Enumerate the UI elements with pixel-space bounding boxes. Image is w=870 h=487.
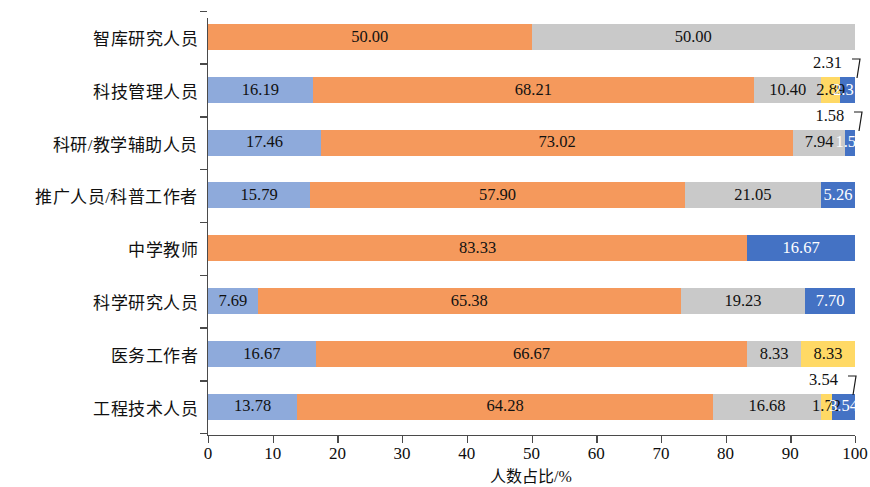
- bar-value-label: 19.23: [724, 293, 761, 310]
- y-axis-tick-4: [200, 222, 207, 223]
- bar-segment-r7-s2: 16.68: [713, 394, 821, 420]
- value-callout-1: 1.58: [815, 106, 844, 126]
- bar-value-label: 50.00: [351, 29, 388, 46]
- bar-segment-r3-s0: 15.79: [208, 182, 310, 208]
- value-callout-0: 2.31: [813, 53, 842, 73]
- x-axis-tick-90: [790, 436, 791, 443]
- bar-value-label: 5.26: [824, 187, 853, 204]
- bar-value-label: 10.40: [769, 82, 806, 99]
- y-axis-tick-7: [200, 380, 207, 381]
- x-axis-tick-label-60: 60: [588, 444, 605, 464]
- bar-value-label: 7.94: [805, 134, 834, 151]
- bar-segment-r2-s0: 17.46: [208, 130, 321, 156]
- bar-segment-r3-s2: 21.05: [685, 182, 821, 208]
- bar-row-7: 13.7864.2816.681.723.54: [0, 394, 870, 420]
- x-axis-title: 人数占比/%: [490, 463, 572, 487]
- y-axis-tick-0: [200, 11, 207, 12]
- value-callout-2: 3.54: [809, 370, 838, 390]
- y-axis-tick-end: [200, 433, 207, 434]
- x-axis-tick-50: [532, 436, 533, 443]
- bar-value-label: 8.33: [814, 346, 843, 363]
- bar-value-label: 21.05: [734, 187, 771, 204]
- bar-row-0: 50.0050.00: [0, 24, 870, 50]
- x-axis-tick-60: [596, 436, 597, 443]
- bar-segment-r3-s1: 57.90: [310, 182, 685, 208]
- bar-value-label: 16.67: [783, 240, 820, 257]
- bar-value-label: 1.58: [835, 134, 864, 151]
- bar-segment-r6-s1: 66.67: [316, 341, 747, 367]
- x-axis-tick-label-0: 0: [204, 444, 213, 464]
- bar-value-label: 7.69: [218, 293, 247, 310]
- bar-segment-r3-s4: 5.26: [821, 182, 855, 208]
- bar-segment-r4-s4: 16.67: [747, 235, 855, 261]
- x-axis-tick-label-10: 10: [264, 444, 281, 464]
- bar-value-label: 7.70: [816, 293, 845, 310]
- bar-segment-r6-s2: 8.33: [747, 341, 801, 367]
- bar-segment-r5-s1: 65.38: [258, 288, 681, 314]
- bar-segment-r1-s2: 10.40: [754, 77, 821, 103]
- bar-row-3: 15.7957.9021.055.26: [0, 182, 870, 208]
- x-axis-tick-20: [337, 436, 338, 443]
- y-axis-tick-1: [200, 63, 207, 64]
- x-axis-tick-label-90: 90: [782, 444, 799, 464]
- bar-value-label: 13.78: [234, 398, 271, 415]
- bar-segment-r1-s0: 16.19: [208, 77, 313, 103]
- bar-value-label: 65.38: [451, 293, 488, 310]
- y-axis-tick-3: [200, 169, 207, 170]
- bar-value-label: 50.00: [675, 29, 712, 46]
- bar-segment-r5-s2: 19.23: [681, 288, 805, 314]
- x-axis-tick-70: [661, 436, 662, 443]
- bar-value-label: 17.46: [246, 134, 283, 151]
- bar-segment-r0-s1: 50.00: [208, 24, 532, 50]
- bar-value-label: 68.21: [515, 82, 552, 99]
- x-axis-tick-80: [726, 436, 727, 443]
- y-axis-tick-6: [200, 327, 207, 328]
- bar-value-label: 16.19: [242, 82, 279, 99]
- bar-value-label: 66.67: [513, 346, 550, 363]
- y-axis-tick-5: [200, 275, 207, 276]
- bar-segment-r6-s3: 8.33: [801, 341, 855, 367]
- bar-value-label: 3.54: [829, 398, 858, 415]
- bar-row-1: 16.1968.2110.402.892.31: [0, 77, 870, 103]
- x-axis-tick-label-40: 40: [458, 444, 475, 464]
- x-axis-tick-30: [402, 436, 403, 443]
- bar-value-label: 2.31: [833, 82, 862, 99]
- x-axis-tick-label-50: 50: [523, 444, 540, 464]
- bar-row-5: 7.6965.3819.237.70: [0, 288, 870, 314]
- bar-value-label: 64.28: [487, 398, 524, 415]
- x-axis-tick-label-100: 100: [842, 444, 868, 464]
- bar-segment-r5-s4: 7.70: [805, 288, 855, 314]
- x-axis-tick-100: [855, 436, 856, 443]
- bar-value-label: 15.79: [241, 187, 278, 204]
- bar-value-label: 16.68: [748, 398, 785, 415]
- bar-row-6: 16.6766.678.338.33: [0, 341, 870, 367]
- bar-segment-r1-s4: 2.31: [840, 77, 855, 103]
- bar-segment-r2-s4: 1.58: [845, 130, 855, 156]
- x-axis-tick-label-80: 80: [717, 444, 734, 464]
- bar-segment-r7-s0: 13.78: [208, 394, 297, 420]
- x-axis-tick-10: [273, 436, 274, 443]
- bar-segment-r7-s4: 3.54: [832, 394, 855, 420]
- x-axis-tick-label-30: 30: [394, 444, 411, 464]
- bar-segment-r2-s1: 73.02: [321, 130, 793, 156]
- bar-segment-r0-s2: 50.00: [532, 24, 856, 50]
- x-axis-tick-label-20: 20: [329, 444, 346, 464]
- bar-value-label: 57.90: [479, 187, 516, 204]
- bar-value-label: 8.33: [760, 346, 789, 363]
- x-axis-tick-40: [467, 436, 468, 443]
- bar-segment-r4-s1: 83.33: [208, 235, 747, 261]
- bar-row-4: 83.3316.67: [0, 235, 870, 261]
- bar-segment-r6-s0: 16.67: [208, 341, 316, 367]
- bar-segment-r1-s1: 68.21: [313, 77, 754, 103]
- bar-value-label: 16.67: [243, 346, 280, 363]
- bar-segment-r5-s0: 7.69: [208, 288, 258, 314]
- x-axis-tick-label-70: 70: [652, 444, 669, 464]
- bar-value-label: 73.02: [539, 134, 576, 151]
- bar-value-label: 83.33: [459, 240, 496, 257]
- y-axis-tick-2: [200, 116, 207, 117]
- bar-row-2: 17.4673.027.941.58: [0, 130, 870, 156]
- x-axis-tick-0: [208, 436, 209, 443]
- bar-segment-r7-s1: 64.28: [297, 394, 713, 420]
